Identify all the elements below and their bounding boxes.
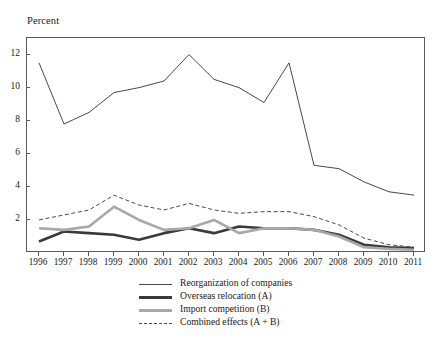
legend-item-import-competition: Import competition (B) [139, 303, 399, 316]
y-axis-tick [26, 54, 30, 55]
x-axis-tick [38, 252, 39, 256]
x-axis-tick [338, 252, 339, 256]
legend-label: Import competition (B) [180, 303, 270, 314]
legend-label: Combined effects (A + B) [180, 316, 280, 327]
y-axis-tick [26, 87, 30, 88]
x-axis-tick [388, 252, 389, 256]
y-axis-tick [26, 186, 30, 187]
x-axis-tick [213, 252, 214, 256]
x-axis-tick [63, 252, 64, 256]
x-axis-tick [263, 252, 264, 256]
x-axis-tick [188, 252, 189, 256]
x-axis-tick [363, 252, 364, 256]
y-axis-tick-label: 2 [4, 213, 20, 223]
legend-label: Reorganization of companies [180, 277, 292, 288]
x-axis-tick [238, 252, 239, 256]
series-line [39, 207, 414, 250]
x-axis-tick [138, 252, 139, 256]
cut-off-header-text [26, 0, 406, 7]
x-axis-tick [88, 252, 89, 256]
y-axis-tick-label: 4 [4, 180, 20, 190]
legend-item-overseas-relocation: Overseas relocation (A) [139, 290, 399, 303]
x-axis-tick [313, 252, 314, 256]
x-axis-tick [288, 252, 289, 256]
x-axis-tick-label: 2011 [398, 257, 428, 267]
chart-lines [27, 38, 426, 253]
line-sample-icon [139, 284, 172, 285]
y-axis-tick [26, 120, 30, 121]
line-sample-icon [139, 309, 172, 312]
line-sample-icon [139, 296, 172, 299]
chart-legend: Reorganization of companies Overseas rel… [139, 277, 399, 329]
y-axis-tick [26, 153, 30, 154]
figure-container: Percent 24681012 19961997199819992000200… [0, 0, 440, 340]
y-axis-tick [26, 219, 30, 220]
legend-item-combined-effects: Combined effects (A + B) [139, 316, 399, 329]
legend-label: Overseas relocation (A) [180, 290, 272, 301]
legend-item-reorganization: Reorganization of companies [139, 277, 399, 290]
y-axis-tick-label: 10 [4, 81, 20, 91]
y-axis-tick-label: 8 [4, 114, 20, 124]
series-line [39, 55, 414, 196]
y-axis-tick-label: 12 [4, 48, 20, 58]
x-axis-tick [413, 252, 414, 256]
y-axis-tick-label: 6 [4, 147, 20, 157]
y-axis-title: Percent [27, 15, 59, 26]
plot-area [26, 37, 425, 252]
line-sample-icon [139, 323, 172, 324]
x-axis-tick [163, 252, 164, 256]
x-axis-tick [113, 252, 114, 256]
